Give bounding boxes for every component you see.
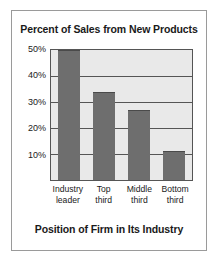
bar-slot-bottom-third [157, 50, 192, 180]
bar-middle-third[interactable] [128, 110, 150, 180]
x-tick-line2: third [86, 195, 122, 206]
x-tick-line1: Top [97, 184, 111, 194]
x-tick-line1: Bottom [162, 184, 189, 194]
x-tick-line1: Industry [53, 184, 84, 194]
y-tick-label-30: 30% [28, 97, 46, 107]
x-tick-line2: third [157, 195, 193, 206]
x-axis: Industry leader Top third Middle third B… [50, 184, 193, 206]
bar-series [51, 50, 192, 180]
x-tick-line2: leader [50, 195, 86, 206]
x-tick-label-bottom-third: Bottom third [157, 184, 193, 206]
y-tick-label-20: 20% [28, 123, 46, 133]
bar-slot-top-third [86, 50, 121, 180]
y-tick-label-40: 40% [28, 70, 46, 80]
x-tick-line2: third [122, 195, 158, 206]
y-axis: 50% 40% 30% 20% 10% [12, 49, 46, 181]
y-tick-label-50: 50% [28, 44, 46, 54]
bar-top-third[interactable] [93, 92, 115, 180]
bar-slot-industry-leader [51, 50, 86, 180]
bar-slot-middle-third [122, 50, 157, 180]
x-tick-label-top-third: Top third [86, 184, 122, 206]
plot-area [50, 49, 193, 181]
y-tick-label-10: 10% [28, 150, 46, 160]
chart-figure: Percent of Sales from New Products 50% 4… [11, 10, 207, 251]
chart-title: Percent of Sales from New Products [12, 23, 206, 35]
x-axis-title: Position of Firm in Its Industry [12, 223, 206, 235]
bar-industry-leader[interactable] [58, 50, 80, 180]
x-tick-label-middle-third: Middle third [122, 184, 158, 206]
bar-bottom-third[interactable] [163, 151, 185, 180]
x-tick-line1: Middle [127, 184, 152, 194]
x-tick-label-industry-leader: Industry leader [50, 184, 86, 206]
